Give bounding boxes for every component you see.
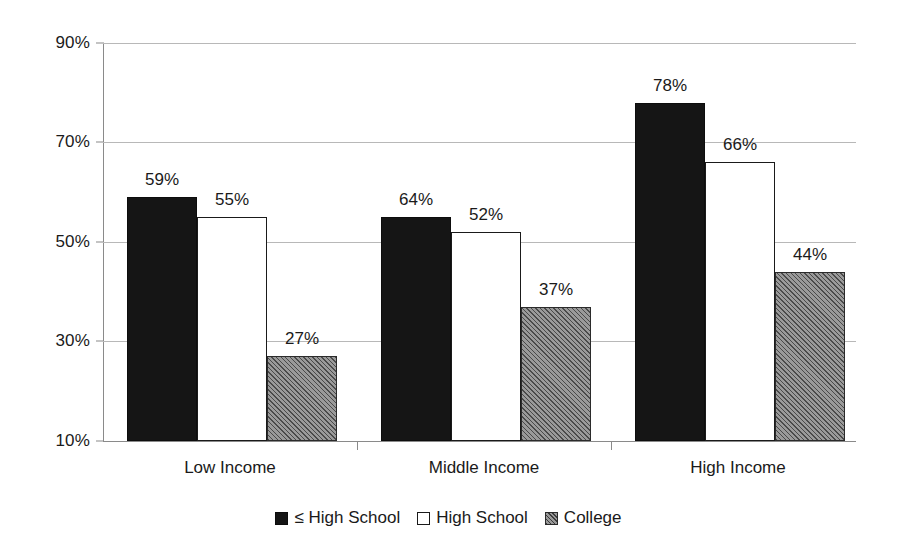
data-label-high-income-college: 44% — [793, 245, 827, 265]
bar-low-income-college[interactable] — [267, 356, 337, 441]
x-axis-line — [103, 441, 856, 442]
data-label-middle-income-le-high-school: 64% — [399, 190, 433, 210]
x-axis-group-separator-2 — [611, 441, 612, 450]
data-label-middle-income-college: 37% — [539, 280, 573, 300]
x-axis-category-low-income: Low Income — [184, 458, 276, 478]
x-axis-category-high-income: High Income — [690, 458, 785, 478]
plot-area — [103, 43, 856, 441]
bar-group-high-income — [611, 43, 865, 441]
bar-group-middle-income — [357, 43, 611, 441]
bar-middle-income-high-school[interactable] — [451, 232, 521, 441]
legend-item-college[interactable]: College — [545, 508, 622, 528]
legend-label-college: College — [564, 508, 622, 528]
bar-group-low-income — [103, 43, 357, 441]
bar-middle-income-college[interactable] — [521, 307, 591, 441]
data-label-high-income-le-high-school: 78% — [653, 76, 687, 96]
bar-low-income-high-school[interactable] — [197, 217, 267, 441]
y-tick-label-90: 90% — [55, 33, 90, 53]
bar-high-income-high-school[interactable] — [705, 162, 775, 441]
x-axis-category-middle-income: Middle Income — [429, 458, 540, 478]
bar-middle-income-le-high-school[interactable] — [381, 217, 451, 441]
data-label-low-income-college: 27% — [285, 329, 319, 349]
data-label-low-income-le-high-school: 59% — [145, 170, 179, 190]
legend-item-le-high-school[interactable]: ≤ High School — [275, 508, 400, 528]
legend-swatch-icon-college — [545, 512, 558, 525]
y-tick-label-50: 50% — [55, 232, 90, 252]
data-label-low-income-high-school: 55% — [215, 190, 249, 210]
legend-swatch-icon-high-school — [417, 512, 430, 525]
y-tick-label-10: 10% — [55, 431, 90, 451]
bar-high-income-college[interactable] — [775, 272, 845, 441]
bar-low-income-le-high-school[interactable] — [127, 197, 197, 441]
x-axis-group-separator-1 — [357, 441, 358, 450]
legend-swatch-icon-le-high-school — [275, 512, 288, 525]
bar-chart: 90% 70% 50% 30% 10% — [0, 0, 897, 543]
legend-label-le-high-school: ≤ High School — [294, 508, 400, 528]
legend-label-high-school: High School — [436, 508, 528, 528]
bar-high-income-le-high-school[interactable] — [635, 103, 705, 441]
data-label-middle-income-high-school: 52% — [469, 205, 503, 225]
chart-legend: ≤ High School High School College — [0, 508, 897, 528]
data-label-high-income-high-school: 66% — [723, 135, 757, 155]
y-tick-label-70: 70% — [55, 132, 90, 152]
legend-item-high-school[interactable]: High School — [417, 508, 528, 528]
y-axis-labels: 90% 70% 50% 30% 10% — [0, 0, 90, 543]
y-tick-label-30: 30% — [55, 331, 90, 351]
